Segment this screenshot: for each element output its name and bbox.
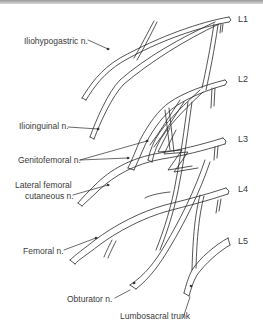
- label-genitofemoral: Genitofemoral n.: [18, 155, 81, 165]
- level-label-l1: L1: [238, 14, 248, 24]
- level-label-l3: L3: [238, 134, 248, 144]
- label-ilioinguinal: Ilioinguinal n.: [19, 121, 69, 131]
- genitofemoral-nerve: [150, 100, 184, 152]
- obturator-nerve: [130, 160, 210, 289]
- label-iliohypogastric: Iliohypogastric n.: [24, 36, 88, 46]
- lumbar-plexus-illustration: [0, 0, 263, 333]
- label-femoral: Femoral n.: [23, 246, 64, 256]
- level-label-l5: L5: [238, 236, 248, 246]
- label-lumbosacral-trunk: Lumbosacral trunk: [120, 311, 190, 321]
- level-label-l4: L4: [238, 184, 248, 194]
- l5-root-nerve: [184, 195, 230, 296]
- level-label-l2: L2: [238, 74, 248, 84]
- l1-root-nerve: [82, 17, 231, 139]
- label-obturator: Obturator n.: [67, 294, 112, 304]
- label-lateral-femoral-line1: Lateral femoral: [15, 180, 72, 190]
- l4-root-nerve: [70, 188, 229, 264]
- label-lateral-femoral-line2: cutaneous n.: [25, 191, 74, 201]
